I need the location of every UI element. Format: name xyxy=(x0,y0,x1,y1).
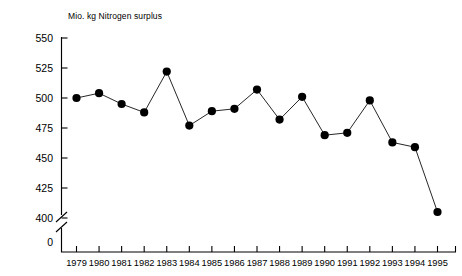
axis-lines xyxy=(56,37,456,252)
data-point-marker xyxy=(388,138,396,146)
series-markers-nitrogen-surplus xyxy=(72,68,441,217)
data-point-marker xyxy=(298,93,306,101)
x-axis-tick-label: 1982 xyxy=(134,258,155,268)
x-axis-tick-label: 1987 xyxy=(247,258,268,268)
y-axis-tick-label: 475 xyxy=(35,122,53,134)
x-axis-line xyxy=(62,228,457,252)
x-axis-tick-label: 1988 xyxy=(269,258,290,268)
y-axis-tick-labels: 5505255004754504254000 xyxy=(35,32,53,248)
y-axis-tick-label: 550 xyxy=(35,32,53,44)
x-axis-tick-label: 1980 xyxy=(89,258,110,268)
data-point-marker xyxy=(433,208,441,216)
data-point-marker xyxy=(118,100,126,108)
x-axis-tick-label: 1993 xyxy=(382,258,403,268)
data-point-marker xyxy=(275,116,283,124)
data-point-marker xyxy=(95,89,103,97)
x-axis-tick-labels: 1979198019811982198319841985198619871988… xyxy=(66,258,448,268)
x-axis-tick-label: 1979 xyxy=(66,258,87,268)
y-axis-tick-label: 425 xyxy=(35,182,53,194)
y-axis-tick-label: 450 xyxy=(35,152,53,164)
data-point-marker xyxy=(253,86,261,94)
data-point-marker xyxy=(140,108,148,116)
x-axis-tick-label: 1990 xyxy=(314,258,335,268)
x-axis-tick-label: 1992 xyxy=(359,258,380,268)
x-axis-tick-label: 1981 xyxy=(111,258,132,268)
data-point-marker xyxy=(366,96,374,104)
data-point-marker xyxy=(343,129,351,137)
x-axis-tick-marks xyxy=(77,246,456,252)
x-axis-tick-label: 1986 xyxy=(224,258,245,268)
data-point-marker xyxy=(230,105,238,113)
data-point-marker xyxy=(72,94,80,102)
chart-container: Mio. kg Nitrogen surplus 550525500475450… xyxy=(0,0,462,276)
x-axis-tick-label: 1983 xyxy=(156,258,177,268)
x-axis-tick-label: 1991 xyxy=(337,258,358,268)
y-axis-tick-label-zero: 0 xyxy=(47,236,53,248)
chart-plot-area: 5505255004754504254000 19791980198119821… xyxy=(0,0,462,276)
data-point-marker xyxy=(411,143,419,151)
data-point-marker xyxy=(185,122,193,130)
y-axis-tick-label: 500 xyxy=(35,92,53,104)
x-axis-tick-label: 1994 xyxy=(405,258,426,268)
x-axis-tick-label: 1984 xyxy=(179,258,200,268)
data-point-marker xyxy=(321,131,329,139)
y-axis-tick-marks xyxy=(62,38,68,218)
x-axis-tick-label: 1995 xyxy=(427,258,448,268)
x-axis-tick-label: 1985 xyxy=(202,258,223,268)
data-point-marker xyxy=(208,107,216,115)
y-axis-tick-label: 525 xyxy=(35,62,53,74)
x-axis-tick-label: 1989 xyxy=(292,258,313,268)
y-axis-tick-label: 400 xyxy=(35,212,53,224)
data-point-marker xyxy=(163,68,171,76)
